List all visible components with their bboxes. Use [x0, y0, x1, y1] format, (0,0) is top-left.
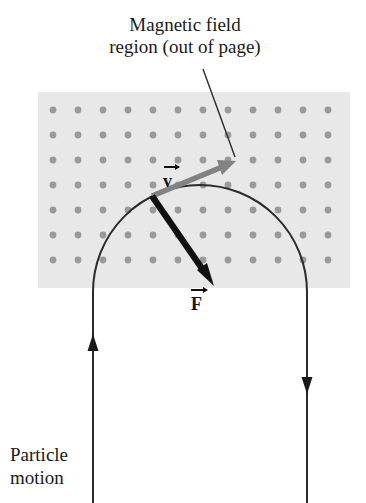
field-dot — [225, 257, 232, 264]
field-dot — [300, 182, 307, 189]
field-dot — [275, 182, 282, 189]
field-dot — [325, 207, 332, 214]
field-dot — [150, 257, 157, 264]
field-dot — [175, 132, 182, 139]
field-dot — [325, 232, 332, 239]
field-dot — [225, 207, 232, 214]
field-dot — [250, 207, 257, 214]
field-dot — [125, 157, 132, 164]
field-dot — [200, 157, 207, 164]
diagram-canvas — [0, 0, 366, 503]
field-dot — [50, 107, 57, 114]
field-dot — [250, 232, 257, 239]
force-vector-label: F — [191, 295, 202, 313]
field-dot — [200, 107, 207, 114]
velocity-symbol: v — [163, 171, 172, 191]
incoming-direction-arrowhead — [88, 334, 99, 351]
vector-arrow-overbar-v — [164, 166, 179, 168]
field-dot — [75, 232, 82, 239]
field-dot — [75, 207, 82, 214]
field-dot — [50, 257, 57, 264]
field-dot — [325, 182, 332, 189]
field-dot — [175, 207, 182, 214]
particle-motion-caption: Particle motion — [10, 443, 100, 489]
field-dot — [125, 107, 132, 114]
field-dot — [275, 157, 282, 164]
field-dot — [100, 257, 107, 264]
field-dot — [325, 107, 332, 114]
field-dot — [100, 207, 107, 214]
field-dot — [250, 132, 257, 139]
field-dot — [250, 182, 257, 189]
field-dot — [50, 232, 57, 239]
field-dot — [150, 207, 157, 214]
field-dot — [150, 132, 157, 139]
field-dot — [50, 182, 57, 189]
field-dot — [250, 107, 257, 114]
field-dot — [75, 257, 82, 264]
field-dot — [75, 182, 82, 189]
field-dot — [300, 107, 307, 114]
field-dot — [125, 232, 132, 239]
field-dot — [100, 232, 107, 239]
field-dot — [150, 232, 157, 239]
field-dot — [275, 132, 282, 139]
field-dot — [75, 132, 82, 139]
magnetic-field-caption: Magnetic field region (out of page) — [60, 14, 310, 59]
field-dot — [200, 132, 207, 139]
field-dot — [300, 132, 307, 139]
field-dot — [100, 182, 107, 189]
field-dot — [100, 157, 107, 164]
field-dot — [50, 132, 57, 139]
field-dot — [125, 257, 132, 264]
field-dot — [225, 232, 232, 239]
field-dot — [300, 232, 307, 239]
force-symbol: F — [191, 294, 202, 314]
field-dot — [150, 157, 157, 164]
vector-arrow-overbar-f — [191, 289, 207, 291]
field-dot — [225, 107, 232, 114]
field-dot — [125, 182, 132, 189]
field-dot — [250, 157, 257, 164]
field-dot — [300, 207, 307, 214]
field-dot — [50, 157, 57, 164]
field-dot — [175, 257, 182, 264]
field-dot — [250, 257, 257, 264]
field-dot — [150, 107, 157, 114]
field-dot — [75, 157, 82, 164]
magnetic-force-diagram: Magnetic field region (out of page) Part… — [0, 0, 366, 503]
field-dot — [100, 132, 107, 139]
field-dot — [325, 257, 332, 264]
field-dot — [200, 207, 207, 214]
field-dot — [275, 107, 282, 114]
field-dot — [50, 207, 57, 214]
field-dot — [175, 107, 182, 114]
field-dot — [200, 232, 207, 239]
field-dot — [300, 157, 307, 164]
field-dot — [75, 107, 82, 114]
field-dot — [125, 132, 132, 139]
field-dot — [150, 182, 157, 189]
field-dot — [100, 107, 107, 114]
field-dot — [275, 207, 282, 214]
field-dot — [275, 257, 282, 264]
velocity-vector-label: v — [163, 172, 172, 190]
field-dot — [175, 157, 182, 164]
field-dot — [325, 157, 332, 164]
outgoing-direction-arrowhead — [302, 377, 313, 394]
field-dot — [275, 232, 282, 239]
field-dot — [325, 132, 332, 139]
